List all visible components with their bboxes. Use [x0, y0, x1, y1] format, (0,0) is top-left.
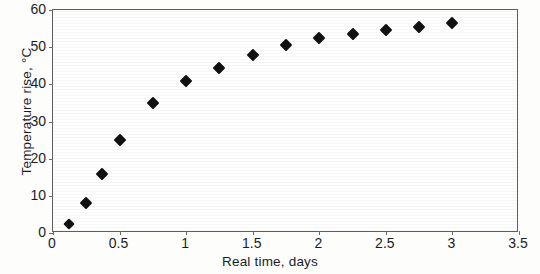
data-point	[379, 24, 392, 37]
x-tick-label: 3	[431, 236, 471, 250]
x-tick-mark	[120, 231, 121, 235]
data-point	[280, 39, 293, 52]
data-point	[446, 17, 459, 30]
data-layer	[53, 10, 517, 231]
data-point	[346, 28, 359, 41]
data-point	[246, 48, 259, 61]
x-tick-label: 1.5	[232, 236, 272, 250]
x-tick-mark	[319, 231, 320, 235]
plot-area	[52, 9, 518, 232]
y-tick-label: 30	[4, 114, 46, 128]
x-tick-label: 2.5	[365, 236, 405, 250]
y-tick-mark	[49, 122, 53, 123]
data-point	[180, 74, 193, 87]
x-tick-label: 0	[32, 236, 72, 250]
x-tick-mark	[253, 231, 254, 235]
y-tick-label: 20	[4, 151, 46, 165]
data-point	[63, 218, 74, 229]
y-tick-label: 40	[4, 76, 46, 90]
y-tick-mark	[49, 159, 53, 160]
x-axis-title: Real time, days	[0, 254, 540, 269]
y-tick-label: 50	[4, 39, 46, 53]
x-tick-mark	[519, 231, 520, 235]
x-tick-mark	[53, 231, 54, 235]
x-tick-mark	[186, 231, 187, 235]
x-tick-label: 3.5	[498, 236, 538, 250]
y-tick-mark	[49, 84, 53, 85]
chart-figure: Temperature rise, °C Real time, days 010…	[0, 0, 540, 274]
data-point	[80, 197, 93, 210]
data-point	[96, 167, 109, 180]
x-tick-label: 2	[298, 236, 338, 250]
y-tick-mark	[49, 196, 53, 197]
y-tick-label: 10	[4, 188, 46, 202]
x-tick-label: 1	[165, 236, 205, 250]
y-tick-label: 60	[4, 2, 46, 16]
y-tick-mark	[49, 47, 53, 48]
y-tick-mark	[49, 10, 53, 11]
data-point	[213, 61, 226, 74]
x-tick-label: 0.5	[99, 236, 139, 250]
data-point	[313, 32, 326, 45]
data-point	[113, 134, 126, 147]
data-point	[413, 20, 426, 33]
x-tick-mark	[386, 231, 387, 235]
data-point	[146, 97, 159, 110]
x-tick-mark	[452, 231, 453, 235]
